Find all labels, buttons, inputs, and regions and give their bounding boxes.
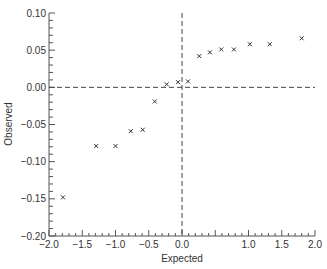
y-tick-label: 0.00 — [27, 82, 47, 93]
x-tick-label: 1.5 — [275, 239, 289, 250]
data-point — [153, 99, 157, 103]
data-point — [300, 36, 304, 40]
scatter-chart: 0.100.050.00−0.05−0.10−0.15−0.20−2.0−1.5… — [0, 0, 327, 269]
data-point — [232, 47, 236, 51]
x-tick-label: −2.0 — [39, 239, 59, 250]
data-point — [94, 144, 98, 148]
y-tick-label: −0.10 — [21, 156, 47, 167]
data-point — [176, 80, 180, 84]
data-point — [61, 195, 65, 199]
data-point — [186, 79, 190, 83]
data-point — [129, 129, 133, 133]
data-point — [197, 54, 201, 58]
x-tick-label: −1.5 — [72, 239, 92, 250]
reference-lines — [49, 13, 315, 236]
x-axis-label: Expected — [161, 253, 203, 264]
x-tick-label: 0.0 — [175, 239, 189, 250]
x-tick-label: −1.0 — [106, 239, 126, 250]
data-point — [208, 50, 212, 54]
data-point — [248, 42, 252, 46]
y-tick-label: 0.05 — [27, 45, 47, 56]
x-tick-label: 1.0 — [242, 239, 256, 250]
data-point — [219, 47, 223, 51]
data-point — [141, 128, 145, 132]
y-tick-label: 0.10 — [27, 8, 47, 19]
data-point — [114, 144, 118, 148]
y-tick-label: −0.05 — [21, 119, 47, 130]
axes: 0.100.050.00−0.05−0.10−0.15−0.20−2.0−1.5… — [21, 8, 323, 251]
x-tick-label: 2.0 — [308, 239, 322, 250]
y-axis-label: Observed — [3, 102, 14, 145]
data-point — [165, 82, 169, 86]
x-tick-label: −0.5 — [139, 239, 159, 250]
data-point — [268, 42, 272, 46]
y-tick-label: −0.15 — [21, 193, 47, 204]
